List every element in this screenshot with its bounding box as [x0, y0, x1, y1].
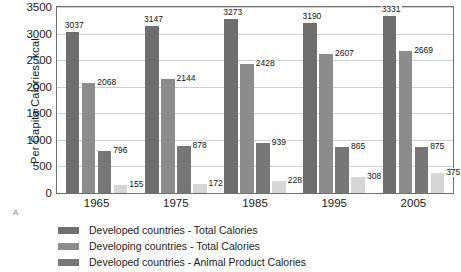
bar-value-label: 3331 — [381, 5, 402, 14]
bar — [383, 16, 397, 193]
bar — [82, 83, 96, 193]
bar-value-label: 375 — [445, 168, 461, 177]
bar — [224, 19, 238, 193]
y-axis-tick-labels: 0500100015002000250030003500 — [14, 0, 52, 194]
bar-group: 32732428939228 — [215, 7, 294, 193]
bar-group: 33312669875375 — [374, 7, 453, 193]
legend-swatch-icon — [58, 243, 79, 250]
bar-value-label: 3190 — [301, 12, 322, 21]
y-axis-tick-label: 2000 — [26, 81, 52, 93]
bar — [114, 185, 128, 193]
y-axis-tick-label: 0 — [46, 187, 52, 199]
y-axis-tick-label: 3500 — [26, 1, 52, 13]
x-axis-tick-label: 2005 — [401, 197, 427, 209]
bar — [272, 181, 286, 193]
x-axis-tick-label: 1985 — [242, 197, 268, 209]
bar-value-label: 3147 — [143, 15, 164, 24]
chart-legend: Developed countries - Total CaloriesDeve… — [58, 222, 458, 270]
bar-value-label: 2068 — [96, 78, 117, 87]
bar — [161, 79, 175, 193]
bar — [319, 54, 333, 193]
bar — [303, 23, 317, 193]
bar-value-label: 3037 — [64, 21, 85, 30]
x-axis-tick-labels: 19651975198519952005 — [56, 197, 454, 215]
y-axis-tick-label: 1500 — [26, 107, 52, 119]
bar — [98, 151, 112, 193]
x-axis-tick-label: 1975 — [163, 197, 189, 209]
bar-value-label: 939 — [271, 138, 287, 147]
bar-value-label: 796 — [112, 146, 128, 155]
bar — [431, 173, 445, 193]
panel-letter: A — [13, 208, 18, 217]
bar-group: 31472144878172 — [136, 7, 215, 193]
bar — [399, 51, 413, 193]
legend-item-label: Developing countries - Total Calories — [89, 240, 260, 252]
bar-value-label: 875 — [429, 142, 445, 151]
y-axis-tick-label: 2500 — [26, 54, 52, 66]
y-axis-tick-label: 1000 — [26, 134, 52, 146]
bar — [177, 146, 191, 193]
plot-area: 3037206879615531472144878172327324289392… — [56, 6, 454, 194]
x-axis-tick-label: 1965 — [84, 197, 110, 209]
legend-item-label: Developed countries - Animal Product Cal… — [89, 256, 306, 268]
bar-value-label: 2607 — [334, 49, 355, 58]
bar — [240, 64, 254, 193]
x-axis-tick-label: 1995 — [321, 197, 347, 209]
legend-item[interactable]: Developed countries - Total Calories — [58, 222, 458, 238]
y-axis-tick-label: 500 — [33, 160, 52, 172]
bar-value-label: 2144 — [176, 74, 197, 83]
bar — [351, 177, 365, 193]
legend-item-label: Developed countries - Total Calories — [89, 224, 257, 236]
bar-group: 30372068796155 — [57, 7, 136, 193]
legend-swatch-icon — [58, 227, 79, 234]
bar — [415, 147, 429, 194]
bar — [66, 32, 80, 193]
legend-swatch-icon — [58, 259, 79, 266]
bar — [256, 143, 270, 193]
bar-value-label: 865 — [350, 142, 366, 151]
bar — [335, 147, 349, 193]
legend-item[interactable]: Developing countries - Total Calories — [58, 238, 458, 254]
bar-value-label: 2428 — [255, 59, 276, 68]
bar-value-label: 878 — [192, 141, 208, 150]
bar — [193, 184, 207, 193]
bar-groups: 3037206879615531472144878172327324289392… — [57, 7, 453, 193]
bar-value-label: 3273 — [222, 8, 243, 17]
legend-item[interactable]: Developed countries - Animal Product Cal… — [58, 254, 458, 270]
y-axis-tick-label: 3000 — [26, 28, 52, 40]
bar-value-label: 2669 — [413, 46, 434, 55]
bar-group: 31902607865308 — [295, 7, 374, 193]
bar — [145, 26, 159, 193]
